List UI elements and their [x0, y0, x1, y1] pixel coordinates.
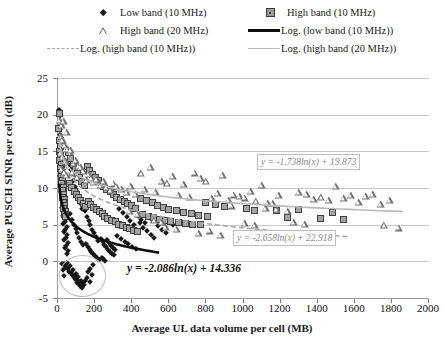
x-tick-mark: [168, 299, 169, 303]
highlight-ellipse: [59, 255, 106, 297]
x-tick-label: 1800: [374, 303, 408, 314]
legend-label: Low band (10 MHz): [120, 7, 207, 18]
x-tick-mark: [57, 299, 58, 303]
solid-black-line-icon: [247, 24, 281, 38]
x-tick-label: 400: [114, 303, 148, 314]
legend-item-log-high-band-20: Log. (high band (20 MHz)): [247, 40, 396, 57]
annotation-low-band-10-equation: y = -2.086ln(x) + 14.336: [127, 262, 241, 274]
x-axis-title: Average UL data volume per cell (MB): [0, 322, 444, 334]
legend-item-low-band-10: Low band (10 MHz): [86, 4, 207, 21]
x-tick-label: 600: [151, 303, 185, 314]
y-tick-label: 10: [22, 183, 48, 194]
x-tick-mark: [131, 299, 132, 303]
dashed-gray-line-icon: [46, 42, 80, 56]
diamond-marker-icon: [86, 6, 120, 20]
annotation-high-band-10-equation: y = -2.658ln(x) + 22.918: [233, 230, 336, 246]
x-tick-label: 2000: [411, 303, 444, 314]
x-tick-mark: [94, 299, 95, 303]
solid-gray-line-icon: [247, 42, 281, 56]
scatter-chart: Low band (10 MHz) High band (10 MHz) Hig…: [0, 0, 444, 345]
legend-label: High band (20 MHz): [120, 25, 208, 36]
y-axis-title: Average PUSCH SINR per cell (dB): [2, 96, 14, 267]
x-tick-mark: [243, 299, 244, 303]
plot-area: [57, 78, 429, 299]
x-tick-label: 1400: [300, 303, 334, 314]
x-tick-label: 200: [77, 303, 111, 314]
x-tick-mark: [317, 299, 318, 303]
square-marker-icon: [253, 6, 287, 20]
x-tick-label: 1000: [226, 303, 260, 314]
legend-item-high-band-10: High band (10 MHz): [253, 4, 375, 21]
y-tick-label: 20: [22, 109, 48, 120]
trendline: [59, 142, 403, 211]
legend-item-high-band-20: High band (20 MHz): [86, 22, 208, 39]
chart-legend: Low band (10 MHz) High band (10 MHz) Hig…: [0, 4, 444, 56]
x-tick-mark: [354, 299, 355, 303]
trendlines-layer: [58, 78, 429, 298]
y-tick-label: -5: [22, 293, 48, 304]
x-tick-mark: [205, 299, 206, 303]
x-tick-label: 1600: [337, 303, 371, 314]
x-tick-mark: [391, 299, 392, 303]
legend-label: High band (10 MHz): [287, 7, 375, 18]
x-tick-mark: [428, 299, 429, 303]
x-tick-label: 800: [188, 303, 222, 314]
x-tick-mark: [280, 299, 281, 303]
y-tick-label: 5: [22, 219, 48, 230]
x-tick-label: 1200: [263, 303, 297, 314]
triangle-marker-icon: [86, 24, 120, 38]
annotation-high-band-20-equation: y = -1.738ln(x) + 19.873: [257, 154, 360, 170]
legend-label: Log. (low band (10 MHz)): [281, 25, 393, 36]
legend-label: Log. (high band (10 MHz)): [80, 43, 195, 54]
y-tick-label: 25: [22, 73, 48, 84]
y-tick-label: 0: [22, 256, 48, 267]
legend-item-log-low-band-10: Log. (low band (10 MHz)): [247, 22, 393, 39]
x-tick-label: 0: [40, 303, 74, 314]
y-tick-label: 15: [22, 146, 48, 157]
legend-item-log-high-band-10: Log. (high band (10 MHz)): [46, 40, 195, 57]
legend-label: Log. (high band (20 MHz)): [281, 43, 396, 54]
